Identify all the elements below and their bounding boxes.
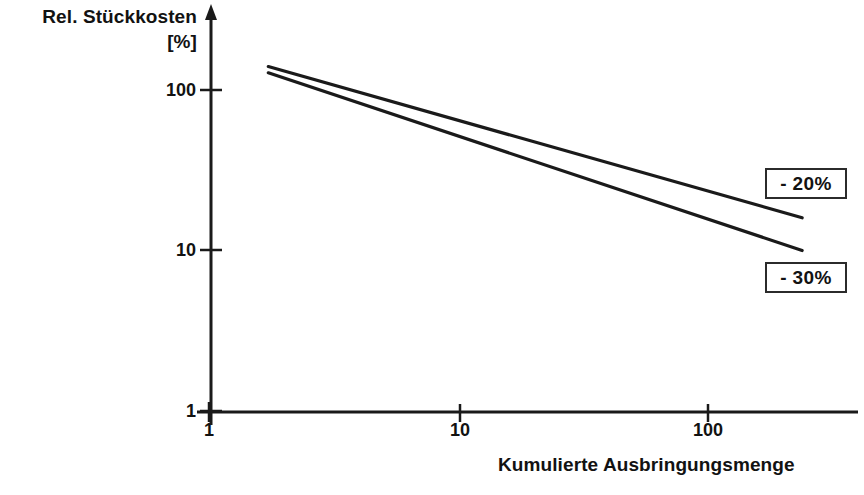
series-line-30 — [268, 73, 802, 251]
y-axis-arrow-icon — [205, 4, 217, 20]
series-line-20 — [268, 67, 802, 218]
chart-canvas: Rel. Stückkosten [%] 100 10 1 1 10 100 K… — [0, 0, 864, 495]
series-lines — [268, 67, 802, 251]
plot-area — [0, 0, 864, 495]
axis-ticks — [200, 90, 708, 422]
axis-lines — [197, 4, 858, 425]
